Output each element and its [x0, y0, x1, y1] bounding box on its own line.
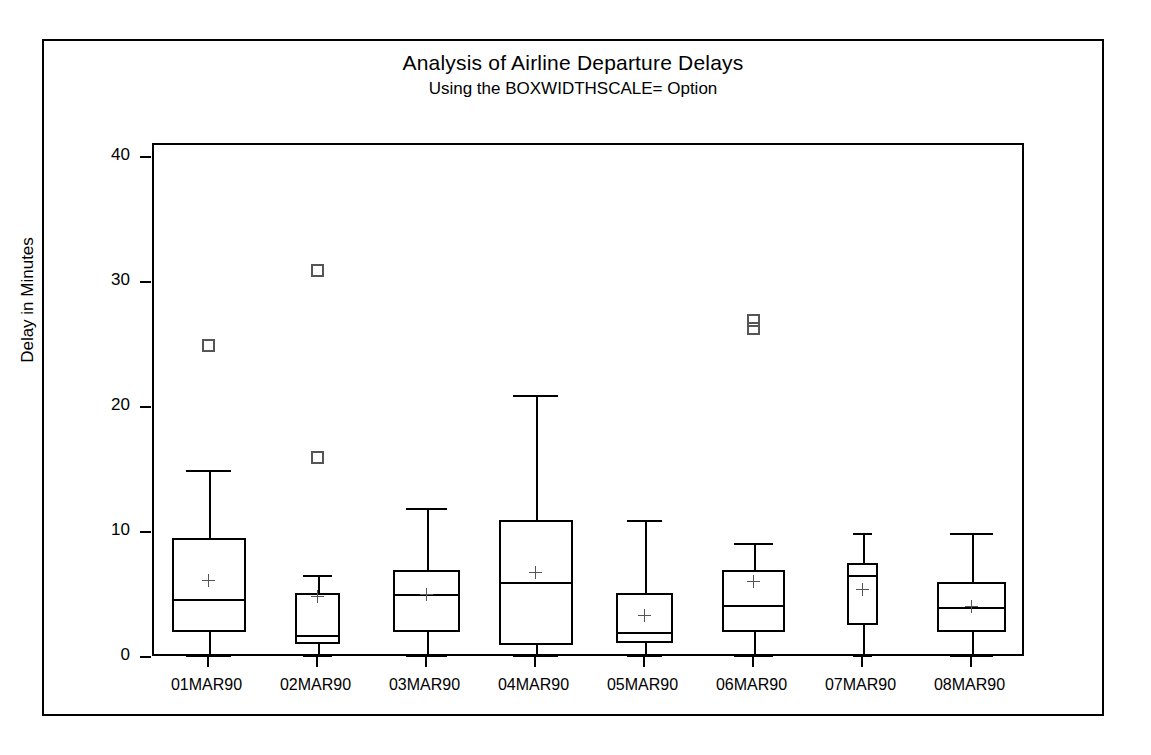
chart-page: Analysis of Airline Departure Delays Usi…	[0, 0, 1151, 755]
x-axis-tick-label: 06MAR90	[716, 676, 787, 694]
x-axis-tick-mark	[207, 656, 209, 667]
lower-whisker-line	[972, 632, 974, 656]
y-axis-tick-label: 30	[90, 270, 130, 290]
x-axis-tick-label: 02MAR90	[280, 676, 351, 694]
plot-area	[152, 143, 1024, 656]
x-axis-tick-mark	[643, 656, 645, 667]
title-block: Analysis of Airline Departure Delays Usi…	[44, 49, 1102, 101]
x-axis-tick-mark	[861, 656, 863, 667]
y-axis-tick-mark	[140, 531, 151, 533]
y-axis-tick-label: 0	[90, 645, 130, 665]
mean-marker-icon	[965, 600, 978, 613]
y-axis-tick-mark	[140, 156, 151, 158]
x-axis-tick-label: 03MAR90	[389, 676, 460, 694]
x-axis-tick-label: 04MAR90	[498, 676, 569, 694]
y-axis-tick-mark	[140, 656, 151, 658]
upper-whisker-cap	[950, 533, 992, 535]
x-axis-tick-mark	[534, 656, 536, 667]
y-axis-tick-mark	[140, 406, 151, 408]
y-axis-tick-label: 10	[90, 520, 130, 540]
x-axis-tick-label: 01MAR90	[171, 676, 242, 694]
page-subtitle: Using the BOXWIDTHSCALE= Option	[44, 77, 1102, 101]
y-axis-tick-label: 40	[90, 145, 130, 165]
y-axis-tick-mark	[140, 281, 151, 283]
plot-inner	[154, 145, 1022, 654]
y-axis-label: Delay in Minutes	[18, 40, 38, 560]
x-axis-tick-label: 05MAR90	[607, 676, 678, 694]
x-axis-tick-mark	[425, 656, 427, 667]
page-title: Analysis of Airline Departure Delays	[44, 49, 1102, 76]
y-axis-tick-label: 20	[90, 395, 130, 415]
x-axis-tick-mark	[970, 656, 972, 667]
upper-whisker-line	[972, 533, 974, 582]
x-axis-tick-mark	[752, 656, 754, 667]
x-axis-tick-label: 08MAR90	[934, 676, 1005, 694]
x-axis-tick-mark	[316, 656, 318, 667]
box-plot-group[interactable]	[154, 145, 1022, 654]
x-axis-tick-label: 07MAR90	[825, 676, 896, 694]
